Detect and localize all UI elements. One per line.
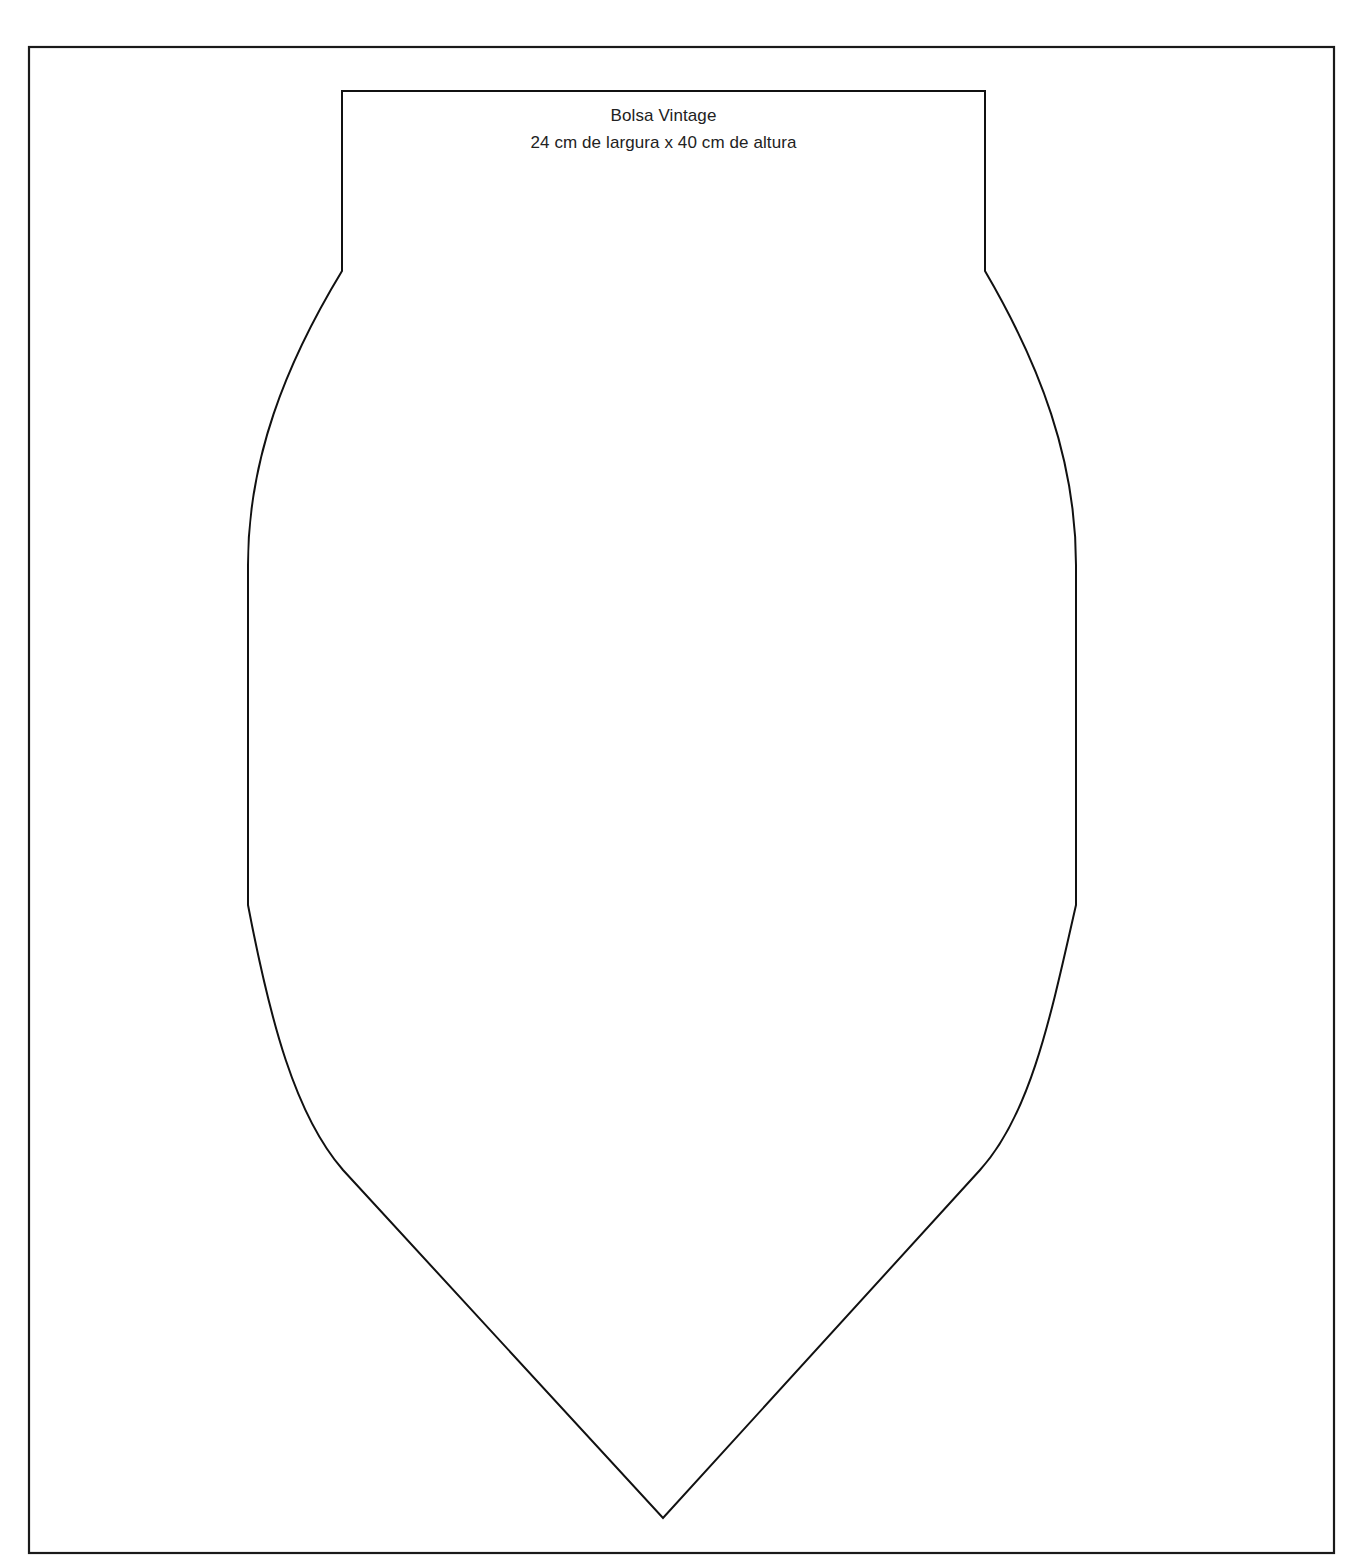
bag-pattern-outline: [248, 91, 1076, 1518]
pattern-dimensions: 24 cm de largura x 40 cm de altura: [342, 133, 985, 153]
pattern-sheet: [0, 0, 1364, 1566]
pattern-title: Bolsa Vintage: [342, 106, 985, 126]
